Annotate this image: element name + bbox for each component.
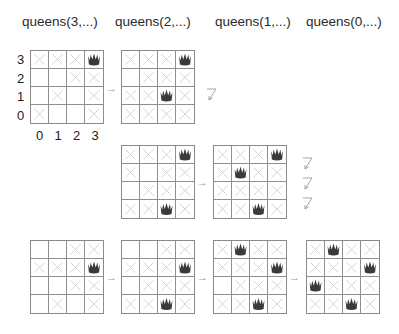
cross-icon <box>122 146 139 163</box>
board-cell-attacked <box>85 241 103 259</box>
queen-crown-icon <box>176 146 194 163</box>
board-cell-queen <box>232 164 250 182</box>
queen-crown-icon <box>232 164 249 181</box>
board-cell-attacked <box>232 182 250 200</box>
board-cell-attacked <box>85 277 103 295</box>
board-cell-attacked <box>176 295 194 313</box>
board-cell-attacked <box>49 295 67 313</box>
chess-board-b3 <box>121 145 195 219</box>
board-cell-attacked <box>140 105 158 123</box>
cross-icon <box>85 295 103 313</box>
cross-icon <box>268 200 286 218</box>
queen-crown-icon <box>361 259 379 276</box>
board-cell-attacked <box>176 241 194 259</box>
column-label: 2 <box>73 128 80 143</box>
chess-board-b6 <box>121 240 195 314</box>
board-cell-queen <box>158 200 176 218</box>
board-cell-attacked <box>232 277 250 295</box>
cross-icon <box>85 277 103 294</box>
board-cell-attacked <box>140 182 158 200</box>
board-cell-attacked <box>176 200 194 218</box>
board-cell-attacked <box>307 259 325 277</box>
board-cell-attacked <box>140 295 158 313</box>
cross-icon <box>325 259 342 276</box>
board-cell-attacked <box>268 241 286 259</box>
board-cell-free <box>31 295 49 313</box>
board-cell-queen <box>158 87 176 105</box>
board-cell-free <box>122 241 140 259</box>
board-cell-attacked <box>158 51 176 69</box>
column-label: 1 <box>55 128 62 143</box>
queen-crown-icon <box>307 277 324 294</box>
board-cell-attacked <box>140 51 158 69</box>
cross-icon <box>214 295 231 313</box>
cross-icon <box>122 105 139 123</box>
cross-icon <box>67 259 84 276</box>
cross-icon <box>122 164 139 181</box>
arrow-right-icon: → <box>197 271 208 283</box>
board-cell-attacked <box>85 295 103 313</box>
board-cell-queen <box>176 51 194 69</box>
board-cell-attacked <box>361 277 379 295</box>
board-cell-attacked <box>343 277 361 295</box>
board-cell-attacked <box>176 277 194 295</box>
arrow-right-icon: → <box>289 271 300 283</box>
board-cell-free <box>49 241 67 259</box>
arrow-right-icon: → <box>106 271 117 283</box>
arrow-right-icon: → <box>197 176 208 188</box>
cross-icon <box>176 277 194 294</box>
cross-icon <box>158 51 175 68</box>
cross-icon <box>158 182 175 199</box>
cross-icon <box>85 241 103 258</box>
queen-crown-icon <box>85 51 103 68</box>
cross-icon <box>140 146 157 163</box>
cross-icon <box>158 69 175 86</box>
cross-icon <box>85 69 103 86</box>
board-cell-attacked <box>232 200 250 218</box>
board-cell-free <box>122 182 140 200</box>
column-title: queens(1,...) <box>215 14 291 29</box>
board-cell-attacked <box>122 200 140 218</box>
cross-icon <box>158 241 175 258</box>
board-cell-attacked <box>158 241 176 259</box>
chess-board-b4 <box>213 145 287 219</box>
board-cell-attacked <box>343 241 361 259</box>
board-cell-attacked <box>49 87 67 105</box>
chess-board-b8 <box>306 240 380 314</box>
board-cell-attacked <box>268 182 286 200</box>
cross-icon <box>49 87 66 104</box>
board-cell-attacked <box>250 259 268 277</box>
cross-icon <box>232 277 249 294</box>
board-cell-queen <box>176 146 194 164</box>
board-cell-attacked <box>49 259 67 277</box>
board-cell-attacked <box>343 259 361 277</box>
board-cell-attacked <box>307 241 325 259</box>
cross-icon <box>250 164 267 181</box>
board-cell-attacked <box>67 241 85 259</box>
board-cell-attacked <box>214 259 232 277</box>
cross-icon <box>158 259 175 276</box>
board-cell-attacked <box>140 259 158 277</box>
board-cell-free <box>214 277 232 295</box>
dead-end-arrow-icon <box>302 157 314 171</box>
board-cell-free <box>31 277 49 295</box>
board-cell-attacked <box>268 295 286 313</box>
board-cell-attacked <box>250 277 268 295</box>
cross-icon <box>325 277 342 294</box>
dead-end-arrow-icon <box>302 197 314 211</box>
board-cell-queen <box>85 51 103 69</box>
cross-icon <box>140 105 157 123</box>
cross-icon <box>214 259 231 276</box>
board-cell-attacked <box>176 105 194 123</box>
cross-icon <box>343 241 360 258</box>
board-cell-attacked <box>268 200 286 218</box>
queen-crown-icon <box>325 241 342 258</box>
cross-icon <box>232 200 249 218</box>
cross-icon <box>67 51 84 68</box>
board-cell-attacked <box>214 295 232 313</box>
board-cell-attacked <box>140 277 158 295</box>
board-cell-free <box>140 164 158 182</box>
dead-end-arrow-icon <box>206 88 218 102</box>
cross-icon <box>250 277 267 294</box>
board-cell-attacked <box>122 105 140 123</box>
